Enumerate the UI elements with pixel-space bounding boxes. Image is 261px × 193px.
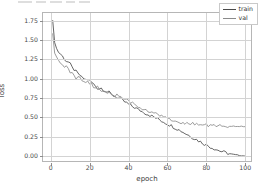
legend-label: val (239, 15, 248, 21)
legend-label: train (239, 6, 253, 12)
y-axis-tick-label: 0.25 (24, 134, 38, 140)
series-lines (43, 13, 253, 163)
y-axis-title: loss (0, 84, 6, 98)
x-axis-title: epoch (42, 176, 252, 183)
gridline-vertical (245, 13, 246, 161)
legend-swatch-train (223, 9, 236, 10)
gridline-vertical (90, 13, 91, 161)
gridline-vertical (167, 13, 168, 161)
y-axis-tick (40, 40, 43, 41)
gridline-horizontal (43, 156, 251, 157)
y-axis-tick (40, 137, 43, 138)
y-axis-tick-label: 1.25 (24, 56, 38, 62)
gridline-horizontal (43, 40, 251, 41)
gridline-horizontal (43, 137, 251, 138)
y-axis-tick (40, 117, 43, 118)
x-axis-tick-label: 0 (49, 165, 53, 171)
y-axis-tick-label: 1.00 (24, 76, 38, 82)
x-axis-tick-label: 80 (202, 165, 210, 171)
x-axis-tick-label: 100 (239, 165, 251, 171)
gridline-vertical (51, 13, 52, 161)
gridline-horizontal (43, 59, 251, 60)
y-axis-tick (40, 79, 43, 80)
gridline-vertical (206, 13, 207, 161)
y-axis-tick-label: 0.50 (24, 114, 38, 120)
legend-item-val[interactable]: val (223, 15, 253, 22)
y-axis-tick (40, 21, 43, 22)
series-line-val (53, 34, 246, 128)
y-axis-tick-label: 1.75 (24, 18, 38, 24)
gridline-horizontal (43, 79, 251, 80)
plot-area: 0.000.250.500.751.001.251.501.7502040608… (42, 12, 252, 162)
y-axis-tick-label: 1.50 (24, 37, 38, 43)
legend: trainval (219, 3, 258, 25)
y-axis-tick (40, 156, 43, 157)
gridline-horizontal (43, 98, 251, 99)
x-axis-tick-label: 20 (86, 165, 94, 171)
y-axis-tick-label: 0.75 (24, 95, 38, 101)
y-axis-tick-label: 0.00 (24, 153, 38, 159)
x-axis-tick-label: 60 (164, 165, 172, 171)
y-axis-tick (40, 59, 43, 60)
x-axis-tick-label: 40 (125, 165, 133, 171)
figure-canvas: 0.000.250.500.751.001.251.501.7502040608… (0, 0, 261, 193)
legend-item-train[interactable]: train (223, 6, 253, 13)
legend-swatch-val (223, 18, 236, 19)
y-axis-tick (40, 98, 43, 99)
gridline-vertical (129, 13, 130, 161)
gridline-horizontal (43, 117, 251, 118)
